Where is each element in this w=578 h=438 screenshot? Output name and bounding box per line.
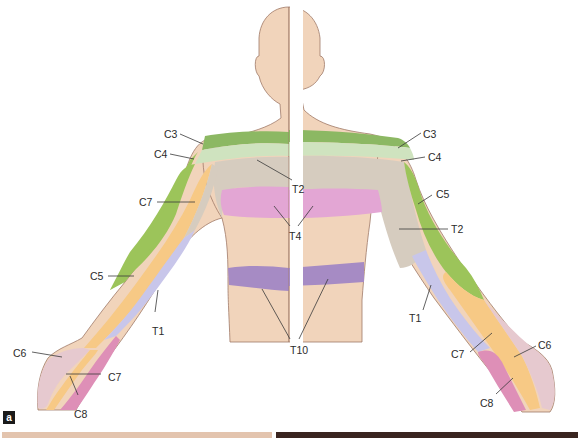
label-C5-right: C5 — [436, 188, 450, 200]
label-C7-right: C7 — [451, 348, 465, 360]
head-right — [289, 7, 404, 150]
posterior-body — [289, 7, 555, 412]
panel-label: a — [3, 411, 15, 424]
label-T2-right: T2 — [451, 223, 463, 235]
anterior-body — [37, 7, 289, 410]
label-C8-right: C8 — [480, 397, 494, 409]
label-C7-hand-left: C7 — [108, 371, 122, 383]
midline-divider — [290, 0, 303, 345]
label-C7-upper-left: C7 — [139, 196, 153, 208]
photo-strip-left — [2, 432, 272, 438]
label-T2-center: T2 — [292, 183, 304, 195]
dermatome-diagram: C3 C4 C7 C5 T1 C6 C7 C8 T2 T4 T10 C3 C4 … — [0, 0, 578, 438]
label-C6-right: C6 — [538, 339, 552, 351]
band-T4-left — [221, 186, 289, 218]
label-C6-left: C6 — [13, 347, 27, 359]
label-C3-left: C3 — [164, 128, 178, 140]
label-C3-right: C3 — [423, 128, 437, 140]
label-C4-left: C4 — [154, 148, 168, 160]
label-C5-left: C5 — [90, 270, 104, 282]
label-T1-right: T1 — [409, 312, 421, 324]
band-C7-right — [443, 272, 540, 410]
head-left — [198, 7, 289, 148]
photo-strip-right — [276, 432, 578, 438]
label-T1-left: T1 — [152, 325, 164, 337]
label-C8-left: C8 — [74, 408, 88, 420]
label-T4-center: T4 — [289, 230, 301, 242]
label-C4-right: C4 — [428, 151, 442, 163]
label-T10-center: T10 — [290, 344, 308, 356]
